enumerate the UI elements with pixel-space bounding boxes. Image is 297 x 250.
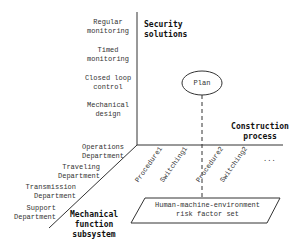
horizontal-item-ellipsis: ...	[263, 155, 276, 164]
diagonal-axis-title: Mechanical function subsystem	[68, 210, 120, 240]
vertical-item-timed-monitoring: Timed monitoring	[82, 46, 134, 64]
horizontal-axis-title: Construction process	[230, 122, 290, 142]
diagonal-item-transmission: Transmission Department	[24, 183, 76, 201]
diagonal-item-traveling: Traveling Department	[50, 163, 100, 181]
plan-label: Plan	[182, 79, 222, 88]
vertical-item-mechanical-design: Mechanical design	[82, 101, 134, 119]
risk-set-label: Human-machine-environment risk factor se…	[140, 201, 275, 219]
diagonal-item-operations: Operations Department	[74, 143, 124, 161]
vertical-item-regular-monitoring: Regular monitoring	[82, 18, 134, 36]
diagonal-item-support: Support Department	[4, 204, 56, 222]
vertical-item-closed-loop-control: Closed loop control	[82, 74, 134, 92]
vertical-axis-title: Security solutions	[144, 20, 187, 40]
